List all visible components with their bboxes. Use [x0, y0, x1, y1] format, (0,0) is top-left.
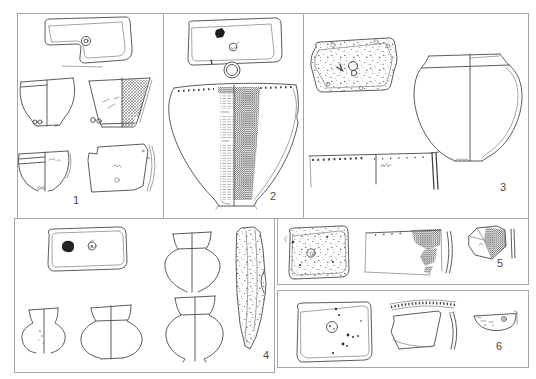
grave-plan-1 [45, 17, 132, 67]
panel-1: 1 [17, 13, 164, 219]
pot-4c-marks [38, 330, 43, 343]
beaker-1 [89, 78, 152, 127]
rim-sherd-3 [309, 152, 439, 189]
plan-6-spots [329, 308, 362, 354]
panel-4-drawing [15, 219, 274, 372]
vessel-2 [169, 83, 299, 209]
panel-2-label: 2 [270, 191, 276, 202]
pot-4d [81, 305, 142, 359]
pot-4a [165, 232, 220, 292]
bowl-profile-2 [18, 151, 71, 191]
axe-6 [474, 311, 517, 331]
axe-6-dots [484, 324, 493, 326]
grave-plan-4 [48, 227, 127, 271]
pot-4b [166, 296, 223, 362]
panel-6-label: 6 [496, 341, 502, 352]
grave-plan-2 [188, 18, 282, 78]
grave-plan-5 [285, 226, 349, 279]
sherd-5 [469, 226, 515, 259]
sherd-6 [391, 311, 457, 349]
pot-3 [414, 54, 522, 161]
rim-sherd-5 [365, 229, 452, 275]
panel-5-drawing [278, 219, 528, 284]
panel-1-drawing [18, 14, 163, 218]
panel-5: 5 [277, 218, 529, 285]
bowl-profile-1 [20, 78, 75, 126]
panel-6-drawing [278, 291, 528, 367]
panel-5-label: 5 [497, 258, 503, 269]
grave-plan-6 [297, 302, 372, 362]
stitched-band-6 [390, 300, 456, 310]
panel-1-label: 1 [73, 195, 79, 206]
pot-4c [22, 308, 65, 353]
panel-3-label: 3 [500, 182, 506, 193]
panel-3: 3 [303, 13, 529, 219]
panel-2: 2 [163, 13, 304, 219]
panel-3-drawing [304, 14, 528, 218]
panel-4: 4 [14, 218, 275, 373]
panel-4-label: 4 [263, 350, 269, 361]
panel-2-drawing [164, 14, 303, 218]
figure-plate: 1 [0, 0, 536, 379]
grave-plan-3 [311, 38, 397, 92]
flint-blade-4 [236, 227, 266, 349]
sherd-1 [88, 144, 155, 192]
panel-6: 6 [277, 290, 529, 368]
